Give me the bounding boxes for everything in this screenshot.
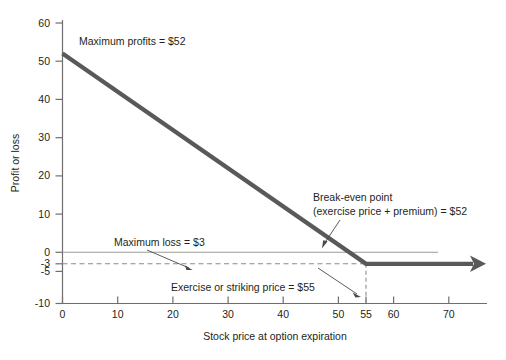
axis-group xyxy=(63,20,488,304)
payoff-line xyxy=(63,54,474,264)
exercise-price-leader-line xyxy=(318,268,357,294)
x-tick-label-10: 10 xyxy=(112,308,124,320)
x-tick-label-0: 0 xyxy=(60,308,66,320)
annotation-maximum-loss: Maximum loss = $3 xyxy=(114,236,205,270)
annotation-exercise-price: Exercise or striking price = $55 xyxy=(171,268,361,297)
x-axis-title: Stock price at option expiration xyxy=(203,330,347,342)
x-tick-marks xyxy=(63,297,449,304)
maximum-loss-arrowhead xyxy=(185,265,193,270)
y-tick-label-20: 20 xyxy=(38,169,50,181)
option-payoff-chart: 60 50 40 30 20 10 0 -3 -5 -10 0 10 xyxy=(0,0,506,360)
x-tick-label-55: 55 xyxy=(360,308,372,320)
x-tick-label-60: 60 xyxy=(388,308,400,320)
x-tick-label-20: 20 xyxy=(167,308,179,320)
y-tick-label-neg5: -5 xyxy=(41,265,50,277)
y-tick-label-neg10: -10 xyxy=(35,297,50,309)
y-tick-marks xyxy=(56,23,63,304)
y-tick-label-40: 40 xyxy=(38,93,50,105)
y-tick-label-30: 30 xyxy=(38,131,50,143)
x-tick-label-30: 30 xyxy=(222,308,234,320)
y-tick-label-50: 50 xyxy=(38,55,50,67)
break-even-arrowhead xyxy=(322,240,328,248)
annotation-break-even-line2: (exercise price + premium) = $52 xyxy=(313,205,467,217)
annotation-break-even-line1: Break-even point xyxy=(313,191,392,203)
y-axis-title: Profit or loss xyxy=(9,134,21,192)
y-tick-label-60: 60 xyxy=(38,17,50,29)
x-tick-labels: 0 10 20 30 40 50 55 60 70 xyxy=(60,308,455,320)
annotation-break-even-point: Break-even point (exercise price + premi… xyxy=(313,191,467,249)
annotation-maximum-loss-text: Maximum loss = $3 xyxy=(114,236,205,248)
exercise-price-arrowhead xyxy=(353,293,361,298)
x-tick-label-40: 40 xyxy=(277,308,289,320)
x-tick-label-50: 50 xyxy=(333,308,345,320)
y-tick-labels: 60 50 40 30 20 10 0 -3 -5 -10 xyxy=(35,17,50,310)
x-tick-label-70: 70 xyxy=(443,308,455,320)
annotation-exercise-price-text: Exercise or striking price = $55 xyxy=(171,281,315,293)
y-tick-label-0: 0 xyxy=(44,246,50,258)
chart-canvas: 60 50 40 30 20 10 0 -3 -5 -10 0 10 xyxy=(0,0,506,360)
annotation-maximum-profits: Maximum profits = $52 xyxy=(79,35,186,47)
y-tick-label-10: 10 xyxy=(38,208,50,220)
